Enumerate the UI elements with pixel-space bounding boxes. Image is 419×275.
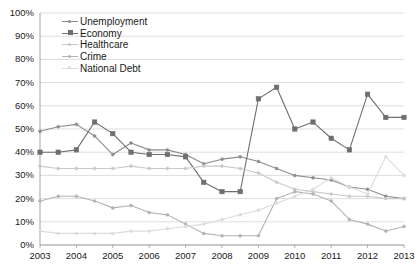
x-axis-label: 2005 xyxy=(95,251,131,261)
data-point xyxy=(148,148,151,151)
legend-item-economy[interactable]: Economy xyxy=(62,28,147,40)
data-point xyxy=(184,225,187,228)
data-point xyxy=(330,199,333,202)
y-axis-label: 30% xyxy=(0,170,34,180)
data-point xyxy=(184,167,187,170)
y-axis-label: 80% xyxy=(0,54,34,64)
x-axis-label: 2008 xyxy=(204,251,240,261)
x-axis-label: 2009 xyxy=(240,251,276,261)
data-point xyxy=(221,165,224,168)
data-point xyxy=(220,189,224,193)
legend-marker-icon xyxy=(62,39,78,50)
x-axis-label: 2003 xyxy=(22,251,58,261)
legend-label: Economy xyxy=(78,28,122,39)
legend-marker-icon xyxy=(62,16,78,27)
data-point xyxy=(329,136,333,140)
data-point xyxy=(366,188,369,191)
data-point xyxy=(330,192,333,195)
data-point xyxy=(384,230,387,233)
x-axis-label: 2013 xyxy=(386,251,419,261)
data-point xyxy=(166,213,169,216)
data-point xyxy=(384,115,388,119)
x-axis-label: 2012 xyxy=(350,251,386,261)
data-point xyxy=(221,234,224,237)
y-axis-label: 50% xyxy=(0,124,34,134)
legend-marker-icon xyxy=(62,51,78,62)
series-line-economy xyxy=(40,87,404,191)
data-point xyxy=(183,155,187,159)
x-axis-label: 2011 xyxy=(313,251,349,261)
data-point xyxy=(312,188,315,191)
data-point xyxy=(93,134,96,137)
data-point xyxy=(256,97,260,101)
data-point xyxy=(39,165,42,168)
legend-marker-icon xyxy=(62,63,78,74)
data-point xyxy=(129,150,133,154)
data-point xyxy=(93,167,96,170)
data-point xyxy=(75,195,78,198)
x-axis-label: 2010 xyxy=(277,251,313,261)
legend-item-healthcare[interactable]: Healthcare xyxy=(62,39,147,51)
chart-legend: UnemploymentEconomyHealthcareCrimeNation… xyxy=(62,16,147,74)
data-point xyxy=(56,150,60,154)
y-axis-label: 20% xyxy=(0,194,34,204)
data-point xyxy=(275,181,278,184)
data-point xyxy=(39,199,42,202)
y-axis-label: 0% xyxy=(0,240,34,250)
legend-item-unemployment[interactable]: Unemployment xyxy=(62,16,147,28)
data-point xyxy=(348,186,351,189)
data-point xyxy=(293,195,296,198)
data-point xyxy=(384,155,387,158)
legend-item-crime[interactable]: Crime xyxy=(62,51,147,63)
legend-label: Healthcare xyxy=(78,39,128,50)
data-point xyxy=(166,167,169,170)
y-axis-label: 70% xyxy=(0,78,34,88)
legend-label: National Debt xyxy=(78,63,141,74)
data-point xyxy=(239,213,242,216)
data-point xyxy=(257,209,260,212)
legend-item-national-debt[interactable]: National Debt xyxy=(62,62,147,74)
data-point xyxy=(38,150,42,154)
y-axis-label: 100% xyxy=(0,8,34,18)
data-point xyxy=(57,167,60,170)
data-point xyxy=(39,230,42,233)
data-point xyxy=(202,180,206,184)
data-point xyxy=(239,155,242,158)
y-axis-label: 90% xyxy=(0,31,34,41)
data-point xyxy=(403,225,406,228)
data-point xyxy=(92,120,96,124)
data-point xyxy=(57,125,60,128)
data-point xyxy=(403,174,406,177)
data-point xyxy=(202,232,205,235)
legend-label: Unemployment xyxy=(78,16,147,27)
data-point xyxy=(311,120,315,124)
data-point xyxy=(293,174,296,177)
data-point xyxy=(275,197,278,200)
data-point xyxy=(111,232,114,235)
data-point xyxy=(166,227,169,230)
y-axis-label: 60% xyxy=(0,101,34,111)
data-point xyxy=(165,152,169,156)
data-point xyxy=(275,167,278,170)
data-point xyxy=(57,195,60,198)
data-point xyxy=(348,195,351,198)
data-point xyxy=(111,131,115,135)
data-point xyxy=(293,190,296,193)
data-point xyxy=(147,152,151,156)
data-point xyxy=(202,223,205,226)
data-point xyxy=(130,141,133,144)
data-point xyxy=(166,148,169,151)
data-point xyxy=(366,223,369,226)
data-point xyxy=(238,189,242,193)
data-point xyxy=(130,204,133,207)
data-point xyxy=(257,234,260,237)
legend-label: Crime xyxy=(78,51,107,62)
legend-marker-icon xyxy=(62,28,78,39)
data-point xyxy=(239,167,242,170)
data-point xyxy=(57,232,60,235)
data-point xyxy=(202,165,205,168)
data-point xyxy=(239,234,242,237)
data-point xyxy=(130,165,133,168)
data-point xyxy=(75,167,78,170)
data-point xyxy=(347,148,351,152)
